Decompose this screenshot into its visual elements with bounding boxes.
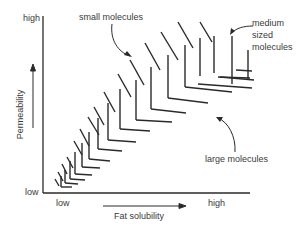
medium-molecules-label-2: sized [252,31,273,40]
x-axis-low-label: low [56,199,70,208]
large-molecules-label: large molecules [205,155,268,164]
x-axis-high-label: high [208,199,225,208]
permeability-arrow-icon [31,64,36,128]
y-axis-title: Permeability [16,83,25,147]
y-axis-low-label: low [25,188,39,197]
annotation-arrowheads [124,28,235,122]
medium-molecules-label-3: molecules [252,43,293,52]
y-axis-high-label: high [23,14,40,23]
x-axis-title: Fat solubility [114,212,164,221]
medium-molecules-label-1: medium [252,19,284,28]
axes [43,16,250,193]
fat-solubility-arrow-icon [103,204,186,209]
small-molecules-label: small molecules [79,13,143,22]
